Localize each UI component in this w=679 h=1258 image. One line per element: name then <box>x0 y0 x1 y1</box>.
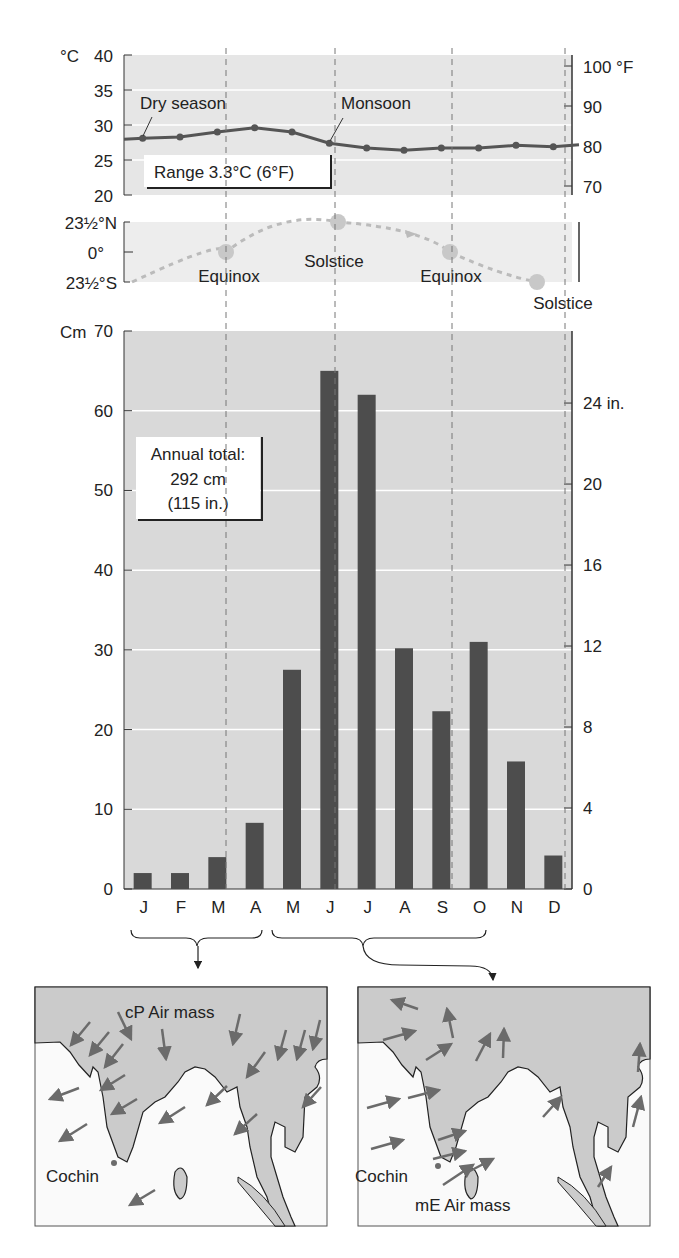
month-label: D <box>548 898 560 917</box>
tick-cm: 60 <box>94 402 113 421</box>
month-label: M <box>286 898 300 917</box>
month-label: O <box>473 898 486 917</box>
precip-bar <box>283 670 301 889</box>
month-label: A <box>250 898 262 917</box>
precip-bar <box>320 371 338 889</box>
temperature-point <box>214 129 221 136</box>
precip-bar <box>470 642 488 889</box>
precip-bar <box>134 873 152 889</box>
temperature-point <box>363 145 370 152</box>
solstice-label-2: Solstice <box>533 294 593 313</box>
tick-in: 0 <box>583 880 592 899</box>
tick-in: 8 <box>583 718 592 737</box>
city-label: Cochin <box>46 1167 99 1186</box>
tick-cm: 40 <box>94 561 113 580</box>
month-label: J <box>139 898 148 917</box>
monsoon-label: Monsoon <box>341 94 411 113</box>
sun-declination-chart: 23½°N 0° 23½°S Equinox Solstice Equinox … <box>65 214 593 313</box>
climograph: °C 40 35 30 25 20 100 °F 90 80 70 Dry se… <box>0 0 679 1258</box>
precip-unit-cm: Cm <box>60 323 86 342</box>
annual-total-line3: (115 in.) <box>167 494 228 513</box>
tick-cm: 20 <box>94 721 113 740</box>
temperature-point <box>401 147 408 154</box>
precip-bar <box>246 823 264 889</box>
tick-cm: 50 <box>94 481 113 500</box>
annual-total-line1: Annual total: <box>151 445 246 464</box>
precip-bar <box>358 395 376 889</box>
equinox-label-2: Equinox <box>420 267 482 286</box>
precip-bar <box>544 856 562 889</box>
tick-cm: 0 <box>104 880 113 899</box>
month-label: A <box>399 898 411 917</box>
temperature-point <box>438 145 445 152</box>
tick-23s: 23½°S <box>66 274 117 293</box>
annual-total-line2: 292 cm <box>170 470 226 489</box>
tick-cm: 70 <box>94 322 113 341</box>
temperature-point <box>289 129 296 136</box>
tick-in: 24 in. <box>583 394 625 413</box>
precip-bar <box>171 873 189 889</box>
tick-c-25: 25 <box>94 152 113 171</box>
month-axis: JFMAMJJASOND <box>139 898 560 917</box>
temperature-point <box>251 124 258 131</box>
tick-0: 0° <box>88 244 104 263</box>
tick-cm: 10 <box>94 800 113 819</box>
month-label: M <box>211 898 225 917</box>
season-braces <box>131 930 493 980</box>
temperature-unit-c: °C <box>60 47 79 66</box>
tick-in: 20 <box>583 475 602 494</box>
sri-lanka <box>174 1168 187 1199</box>
map-dry-season: cP Air mass Cochin <box>35 987 327 1226</box>
precip-bar <box>507 761 525 889</box>
tick-cm: 30 <box>94 641 113 660</box>
temperature-point <box>475 145 482 152</box>
precip-bar <box>208 857 226 889</box>
tick-f-70: 70 <box>583 178 602 197</box>
dry-season-label: Dry season <box>140 94 226 113</box>
solstice-marker <box>529 274 545 290</box>
tick-f-90: 90 <box>583 98 602 117</box>
precip-bar <box>432 711 450 889</box>
precipitation-chart: 70605040302010024 in.201612840 Cm Annual… <box>60 322 625 899</box>
temperature-point <box>177 133 184 140</box>
month-label: F <box>176 898 186 917</box>
month-label: J <box>326 898 335 917</box>
equinox-marker <box>442 244 458 260</box>
tick-23n: 23½°N <box>65 214 117 233</box>
temperature-point <box>550 143 557 150</box>
sri-lanka <box>465 1168 478 1199</box>
tick-c-20: 20 <box>94 187 113 206</box>
temperature-point <box>513 142 520 149</box>
range-label: Range 3.3°C (6°F) <box>154 163 294 182</box>
map-monsoon-season: Cochin mE Air mass <box>355 987 650 1226</box>
precip-plot-bg <box>124 331 572 889</box>
solstice-label-1: Solstice <box>304 252 364 271</box>
tick-f-100: 100 °F <box>583 58 633 77</box>
temperature-point <box>326 140 333 147</box>
month-label: J <box>363 898 372 917</box>
tick-in: 16 <box>583 556 602 575</box>
air-mass-label: mE Air mass <box>415 1196 510 1215</box>
tick-c-40: 40 <box>94 47 113 66</box>
month-label: S <box>437 898 448 917</box>
tick-in: 4 <box>583 799 592 818</box>
temperature-chart: °C 40 35 30 25 20 100 °F 90 80 70 Dry se… <box>60 47 633 206</box>
solstice-marker <box>330 214 346 230</box>
month-label: N <box>511 898 523 917</box>
temperature-point <box>139 135 146 142</box>
tick-c-35: 35 <box>94 82 113 101</box>
city-label: Cochin <box>355 1167 408 1186</box>
precip-bar <box>395 648 413 889</box>
tick-f-80: 80 <box>583 138 602 157</box>
air-mass-label: cP Air mass <box>125 1003 214 1022</box>
tick-in: 12 <box>583 637 602 656</box>
tick-c-30: 30 <box>94 117 113 136</box>
equinox-label-1: Equinox <box>198 267 260 286</box>
